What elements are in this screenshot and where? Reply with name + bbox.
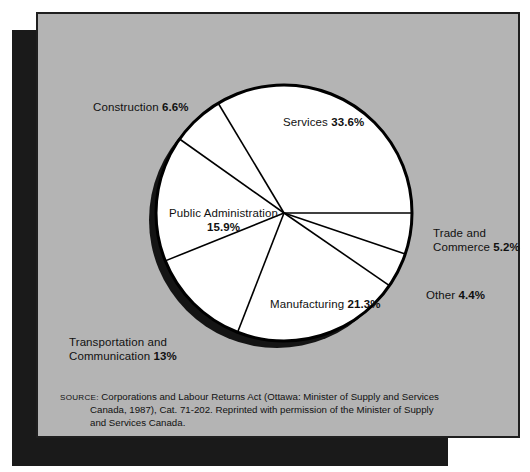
pie-label-trade-line1: Trade and bbox=[433, 227, 486, 239]
source-label: SOURCE: bbox=[60, 393, 99, 402]
pie-label-transportation-communication: Transportation and Communication 13% bbox=[69, 335, 177, 363]
pie-label-construction-name: Construction bbox=[93, 101, 162, 113]
pie-label-services-pct: 33.6% bbox=[331, 116, 364, 128]
figure-root: Services 33.6% Construction 6.6% Public … bbox=[0, 0, 530, 472]
pie-label-construction-pct: 6.6% bbox=[162, 101, 189, 113]
pie-label-transportation-name: Communication bbox=[69, 350, 154, 362]
pie-label-other-pct: 4.4% bbox=[459, 289, 486, 301]
pie-label-construction: Construction 6.6% bbox=[93, 100, 189, 114]
source-line-3: and Services Canada. bbox=[60, 417, 490, 429]
pie-label-other-name: Other bbox=[426, 289, 459, 301]
figure-panel: Services 33.6% Construction 6.6% Public … bbox=[36, 12, 520, 438]
pie-label-manufacturing-name: Manufacturing bbox=[270, 298, 347, 310]
pie-label-transportation-pct: 13% bbox=[154, 350, 177, 362]
pie-label-other: Other 4.4% bbox=[426, 288, 485, 302]
pie-label-trade-commerce: Trade and Commerce 5.2% bbox=[433, 226, 520, 254]
source-line-1: Corporations and Labour Returns Act (Ott… bbox=[99, 391, 439, 402]
pie-label-transportation-line1: Transportation and bbox=[69, 336, 167, 348]
pie-label-trade-pct: 5.2% bbox=[493, 241, 520, 253]
pie-label-public-administration: Public Administration 15.9% bbox=[151, 206, 296, 234]
pie-chart-area: Services 33.6% Construction 6.6% Public … bbox=[38, 14, 522, 440]
pie-label-public-administration-name: Public Administration bbox=[169, 207, 278, 219]
source-line-2: Canada, 1987), Cat. 71-202. Reprinted wi… bbox=[60, 404, 490, 416]
pie-label-manufacturing: Manufacturing 21.3% bbox=[270, 297, 381, 311]
source-caption: SOURCE: Corporations and Labour Returns … bbox=[60, 391, 490, 429]
pie-label-services-name: Services bbox=[283, 116, 331, 128]
pie-label-public-administration-pct: 15.9% bbox=[207, 221, 240, 233]
pie-label-services: Services 33.6% bbox=[283, 115, 364, 129]
pie-label-trade-name: Commerce bbox=[433, 241, 493, 253]
pie-label-manufacturing-pct: 21.3% bbox=[347, 298, 380, 310]
